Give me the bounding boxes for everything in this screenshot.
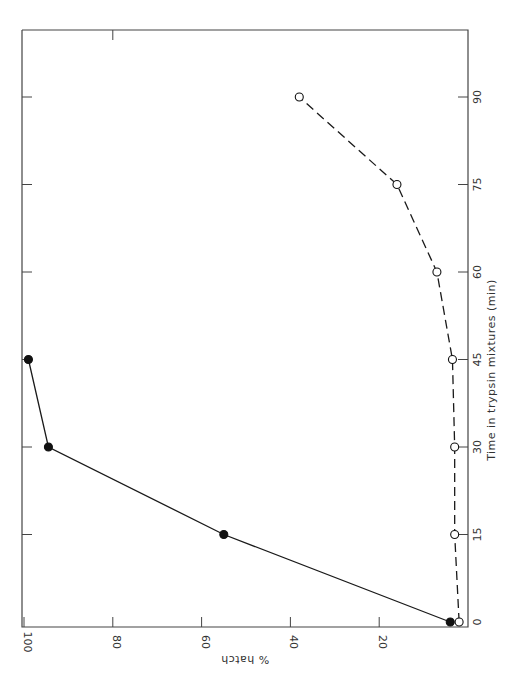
open-data-point bbox=[433, 268, 441, 276]
filled-data-point bbox=[220, 531, 228, 539]
time-tick-label: 75 bbox=[471, 178, 484, 192]
series-lines bbox=[28, 97, 459, 622]
time-tick-label: 90 bbox=[471, 90, 484, 104]
chart: 20406080100 0153045607590 % hatch Time i… bbox=[0, 0, 507, 674]
plot-frame bbox=[22, 30, 468, 627]
hatch-tick-label: 80 bbox=[110, 635, 123, 649]
time-tick-label: 60 bbox=[471, 265, 484, 279]
filled-data-point bbox=[44, 443, 52, 451]
hatch-tick-label: 100 bbox=[21, 632, 34, 653]
dashed-series-line bbox=[299, 97, 459, 622]
time-tick-label: 15 bbox=[471, 528, 484, 542]
filled-data-point bbox=[446, 618, 454, 626]
open-data-point bbox=[451, 443, 459, 451]
hatch-tick-label: 40 bbox=[287, 635, 300, 649]
open-data-point bbox=[455, 618, 463, 626]
solid-series-line bbox=[28, 360, 450, 623]
series-points bbox=[24, 93, 463, 626]
open-data-point bbox=[393, 181, 401, 189]
time-axis-label: Time in trypsin mixtures (min) bbox=[485, 279, 498, 462]
open-data-point bbox=[448, 356, 456, 364]
hatch-tick-label: 20 bbox=[376, 635, 389, 649]
time-tick-label: 45 bbox=[471, 353, 484, 367]
hatch-axis-label: % hatch bbox=[221, 653, 270, 666]
hatch-axis-ticks: 20406080100 bbox=[21, 30, 389, 653]
hatch-tick-label: 60 bbox=[199, 635, 212, 649]
open-data-point bbox=[295, 93, 303, 101]
time-tick-label: 30 bbox=[471, 440, 484, 454]
open-data-point bbox=[451, 531, 459, 539]
time-tick-label: 0 bbox=[471, 619, 484, 626]
filled-data-point bbox=[24, 356, 32, 364]
